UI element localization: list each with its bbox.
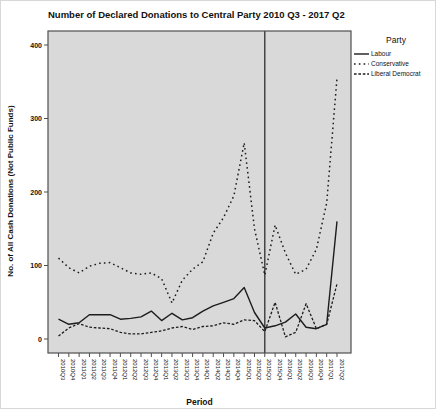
legend-entry-conservative: Conservative	[353, 59, 436, 68]
y-tick-label: 200	[30, 189, 42, 196]
x-tick-label: 2016Q1	[287, 359, 293, 381]
x-tick-label: 2017Q1	[328, 359, 334, 381]
legend-entry-labour: Labour	[353, 49, 436, 58]
legend: Party LabourConservativeLiberal Democrat	[353, 35, 436, 79]
legend-label: Liberal Democrat	[371, 70, 421, 77]
x-tick-label: 2011Q1	[81, 359, 87, 381]
x-axis-title: Period	[48, 397, 351, 407]
legend-line-sample	[353, 50, 370, 58]
x-tick-label: 2016Q4	[318, 359, 324, 381]
x-tick-label: 2015Q3	[266, 359, 272, 381]
legend-title: Party	[361, 35, 431, 45]
x-tick-label: 2013Q3	[184, 359, 190, 381]
x-tick-label: 2012Q3	[143, 359, 149, 381]
x-tick-label: 2014Q4	[235, 359, 241, 381]
donations-line-chart-figure: Number of Declared Donations to Central …	[0, 0, 436, 409]
x-tick-label: 2010Q3	[60, 359, 66, 381]
x-tick-label: 2010Q4	[70, 359, 76, 381]
x-tick-label: 2015Q1	[246, 359, 252, 381]
x-tick-label: 2014Q1	[204, 359, 210, 381]
x-tick-label: 2011Q3	[101, 359, 107, 381]
y-tick-label: 100	[30, 262, 42, 269]
legend-entry-liberal-democrat: Liberal Democrat	[353, 69, 436, 78]
x-tick-label: 2012Q1	[122, 359, 128, 381]
legend-label: Labour	[371, 50, 391, 57]
x-tick-label: 2012Q4	[153, 359, 159, 381]
x-tick-label: 2011Q4	[112, 359, 118, 381]
x-tick-label: 2015Q4	[277, 359, 283, 381]
x-tick-label: 2013Q2	[173, 359, 179, 381]
x-tick-label: 2015Q2	[256, 359, 262, 381]
x-tick-label: 2014Q2	[215, 359, 221, 381]
x-tick-label: 2011Q2	[91, 359, 97, 381]
legend-entries: LabourConservativeLiberal Democrat	[353, 49, 436, 78]
y-tick-label: 300	[30, 115, 42, 122]
y-tick-label: 0	[38, 336, 42, 343]
legend-line-sample	[353, 70, 370, 78]
legend-line-sample	[353, 60, 370, 68]
x-tick-label: 2017Q2	[339, 359, 345, 381]
x-tick-label: 2016Q3	[308, 359, 314, 381]
y-tick-label: 400	[30, 42, 42, 49]
x-tick-label: 2016Q2	[297, 359, 303, 381]
x-tick-label: 2013Q4	[194, 359, 200, 381]
x-tick-label: 2014Q3	[225, 359, 231, 381]
x-tick-label: 2012Q2	[132, 359, 138, 381]
legend-label: Conservative	[371, 60, 409, 67]
x-tick-label: 2013Q1	[163, 359, 169, 381]
